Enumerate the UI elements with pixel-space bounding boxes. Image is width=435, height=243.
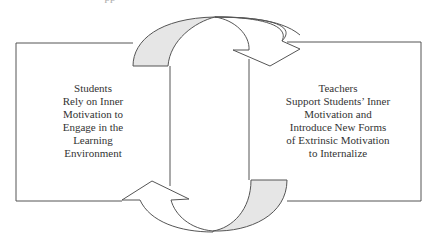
right-box-line: Introduce New Forms [263,121,413,134]
bottom-arrow-shaded-tail [213,180,287,231]
top-arrow-shaded-tail [133,17,215,66]
cycle-diagram: pp Students Rely on Inner Motivation to … [0,0,435,243]
right-box-line: Support Students’ Inner [263,95,413,108]
left-box-text: Students Rely on Inner Motivation to Eng… [33,82,153,160]
right-box-line: of Extrinsic Motivation [263,134,413,147]
right-box-line: Teachers [263,82,413,95]
left-box-line: Rely on Inner [33,95,153,108]
right-box-text: Teachers Support Students’ Inner Motivat… [263,82,413,160]
cropped-caption-fragment: pp [0,0,220,3]
bottom-arrow-body [122,181,213,232]
left-box-line: Environment [33,147,153,160]
left-box-line: Motivation to [33,108,153,121]
right-box-line: to Internalize [263,147,413,160]
left-box-line: Engage in the [33,121,153,134]
left-box-line: Learning [33,134,153,147]
left-box-line: Students [33,82,153,95]
right-box-line: Motivation and [263,108,413,121]
